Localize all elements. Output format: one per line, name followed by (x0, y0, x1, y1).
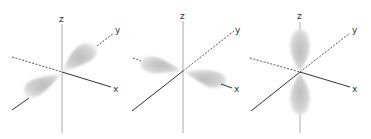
x-axis-solid (62, 72, 111, 87)
y-axis-solid (132, 71, 183, 111)
lobe-positive (290, 29, 310, 72)
lobe-negative (141, 56, 183, 74)
x-label: x (113, 84, 119, 94)
y-axis-dashed (97, 33, 114, 46)
panel-py: z y x (12, 14, 121, 133)
x-axis-dashed (133, 58, 141, 61)
x-label: x (352, 84, 358, 94)
p-orbitals-figure: z y x z y x (0, 0, 371, 139)
z-label: z (180, 11, 185, 21)
lobe-positive (183, 70, 226, 89)
x-axis-dashed (12, 57, 62, 72)
x-axis-dashed (250, 58, 300, 72)
lobe-positive (62, 43, 97, 72)
x-label: x (234, 84, 240, 94)
y-label: y (235, 25, 241, 35)
panel-pz: z y x (250, 11, 358, 133)
z-label: z (297, 11, 302, 21)
y-axis-dashed (183, 31, 234, 71)
y-label: y (352, 25, 358, 35)
y-label: y (115, 25, 121, 35)
orbitals-diagram: z y x z y x (0, 0, 371, 139)
y-axis-solid (12, 98, 29, 110)
z-label: z (59, 14, 64, 24)
lobe-negative (290, 72, 310, 115)
panel-px: z y x (132, 11, 241, 133)
x-axis-solid (300, 72, 350, 87)
lobe-negative (24, 72, 62, 98)
